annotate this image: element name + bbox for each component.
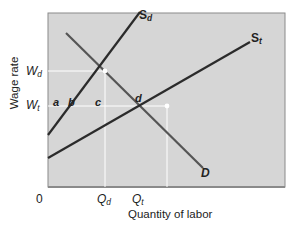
st-label: St bbox=[251, 31, 262, 46]
sd-label: Sd bbox=[139, 8, 152, 23]
wd-tick-label: Wd bbox=[26, 64, 42, 79]
qd-tick-label: Qd bbox=[97, 192, 111, 207]
area-label-a: a bbox=[53, 96, 59, 108]
x-axis-title: Quantity of labor bbox=[128, 208, 212, 220]
wt-tick-label: Wt bbox=[26, 98, 40, 113]
origin-label: 0 bbox=[36, 192, 43, 206]
y-axis-title: Wage rate bbox=[8, 53, 20, 113]
equilibrium-point-total bbox=[165, 104, 170, 109]
area-label-b: b bbox=[68, 96, 75, 108]
equilibrium-point-domestic bbox=[103, 69, 108, 74]
qt-tick-label: Qt bbox=[132, 192, 144, 207]
point-label-d: d bbox=[135, 92, 142, 104]
d-curve-label: D bbox=[201, 166, 210, 180]
area-label-c: c bbox=[95, 96, 101, 108]
